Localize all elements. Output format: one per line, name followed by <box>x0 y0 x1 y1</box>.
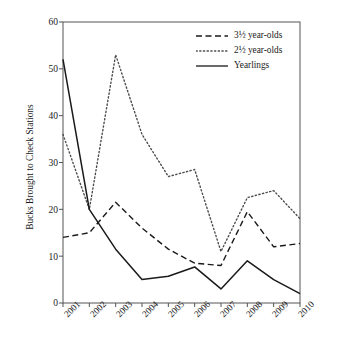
y-tick-label: 60 <box>36 17 58 27</box>
y-tick-label: 10 <box>36 252 58 262</box>
legend-entry-1: 2½ year-olds <box>196 43 282 58</box>
legend-swatch-dotted-icon <box>196 46 228 56</box>
y-tick-label: 50 <box>36 64 58 74</box>
legend: 3½ year-olds 2½ year-olds Yearlings <box>196 28 282 73</box>
y-tick-label: 0 <box>36 298 58 308</box>
y-tick-label: 30 <box>36 158 58 168</box>
y-tick-label: 20 <box>36 205 58 215</box>
y-tick-label: 40 <box>36 111 58 121</box>
y-tick-label-group: 60 50 40 30 20 10 0 <box>36 0 58 347</box>
legend-label: Yearlings <box>234 61 269 70</box>
series-line <box>63 59 300 293</box>
line-chart-figure: Bucks Brought to Check Stations 60 50 40… <box>0 0 339 347</box>
series-line <box>63 202 300 265</box>
legend-swatch-dashed-icon <box>196 31 228 41</box>
series-layer <box>63 55 300 294</box>
y-axis-title: Bucks Brought to Check Stations <box>25 52 35 282</box>
legend-label: 2½ year-olds <box>234 46 282 55</box>
y-tick-marks <box>59 22 63 303</box>
legend-entry-0: 3½ year-olds <box>196 28 282 43</box>
legend-swatch-solid-icon <box>196 61 228 71</box>
legend-entry-2: Yearlings <box>196 58 282 73</box>
legend-label: 3½ year-olds <box>234 31 282 40</box>
